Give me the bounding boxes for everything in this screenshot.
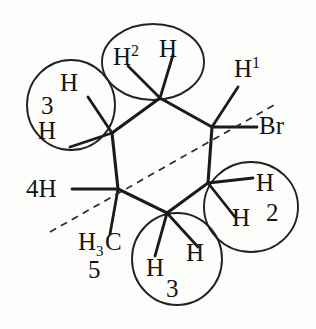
label-h2-lr-top: H [256, 170, 274, 195]
label-h3-bot-left-text: H [146, 254, 164, 281]
label-h3-bot-right-text: H [186, 239, 204, 266]
ring-bonds-group [112, 98, 212, 213]
label-h1-text: H [234, 55, 252, 82]
label-h3-top: H [60, 70, 78, 95]
bond-top-to-h2a [128, 66, 160, 98]
label-h3c-text: H [78, 228, 96, 255]
label-5-text: 5 [88, 256, 101, 283]
label-c-methyl-text: C [105, 228, 122, 255]
label-h2-lr-bottom-text: H [232, 204, 250, 231]
label-h2-lr-top-text: H [256, 169, 274, 196]
label-h2-right: H [159, 36, 177, 61]
label-h2-right-text: H [159, 35, 177, 62]
label-h3-bottom: H [38, 118, 56, 143]
label-2-lr: 2 [266, 200, 279, 225]
label-5: 5 [88, 257, 101, 282]
label-br-text: Br [259, 112, 284, 139]
label-br: Br [259, 113, 284, 138]
label-h3-bot-left: H [146, 255, 164, 280]
label-3-bottom: 3 [166, 276, 179, 301]
label-h2-left-text: H [113, 43, 131, 70]
label-h1: H1 [234, 56, 260, 81]
label-h2-lr-bottom: H [232, 205, 250, 230]
bond-bottom-to-h3a [155, 213, 167, 256]
chemical-structure-figure: H2HH3HH1BrHH24HH3C5HH3 [0, 0, 316, 329]
label-3-bottom-text: 3 [166, 275, 179, 302]
bond-upper-left-to-h3a [88, 97, 112, 133]
label-h2-left: H2 [113, 44, 139, 69]
label-h3-bot-right: H [186, 240, 204, 265]
label-h2-left-superscript: 2 [131, 42, 139, 59]
bond-upper-right-to-h1 [212, 87, 238, 127]
label-4h-text: 4H [26, 175, 57, 202]
substituent-bonds-group [70, 55, 257, 256]
label-c-methyl: C [105, 229, 122, 254]
label-h3-top-text: H [60, 69, 78, 96]
label-4h: 4H [26, 176, 57, 201]
label-3-left: 3 [41, 93, 54, 118]
label-2-lr-text: 2 [266, 199, 279, 226]
bond-lower-right-to-h2b [208, 183, 235, 217]
label-h3-bottom-text: H [38, 117, 56, 144]
label-h3c: H3 [78, 229, 104, 254]
label-h1-superscript: 1 [252, 54, 260, 71]
label-3-left-text: 3 [41, 92, 54, 119]
cyclohexane-ring [112, 98, 212, 213]
